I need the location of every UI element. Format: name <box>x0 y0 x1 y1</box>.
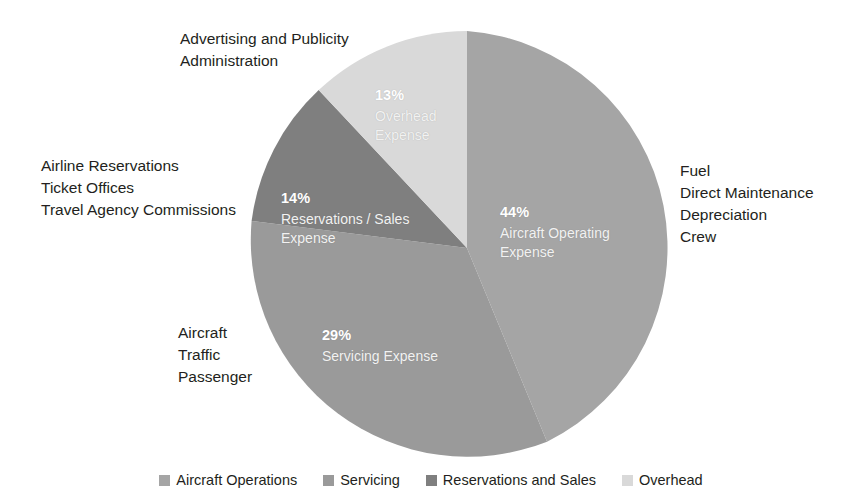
legend-swatch-icon <box>622 475 633 486</box>
callout-aircraft-line1: Fuel <box>680 160 814 182</box>
data-label-line1: Overhead <box>375 107 436 127</box>
legend-item-label: Aircraft Operations <box>176 472 297 488</box>
data-label-overhead: 13% Overhead Expense <box>375 86 436 146</box>
callout-servicing-line1: Aircraft <box>178 322 252 344</box>
chart-legend: Aircraft Operations Servicing Reservatio… <box>0 472 862 488</box>
callout-servicing-line3: Passenger <box>178 366 252 388</box>
callout-servicing-line2: Traffic <box>178 344 252 366</box>
legend-swatch-icon <box>159 475 170 486</box>
legend-swatch-icon <box>323 475 334 486</box>
data-label-servicing: 29% Servicing Expense <box>322 326 438 366</box>
data-label-line2: Expense <box>500 243 610 263</box>
callout-aircraft-operations: Fuel Direct Maintenance Depreciation Cre… <box>680 160 814 248</box>
callout-aircraft-line2: Direct Maintenance <box>680 182 814 204</box>
data-label-percent: 13% <box>375 86 436 106</box>
legend-swatch-icon <box>426 475 437 486</box>
callout-reservations-line2: Ticket Offices <box>41 177 236 199</box>
data-label-aircraft-operations: 44% Aircraft Operating Expense <box>500 203 610 263</box>
callout-aircraft-line4: Crew <box>680 226 814 248</box>
callout-overhead: Advertising and Publicity Administration <box>180 28 349 72</box>
callout-overhead-line2: Administration <box>180 50 349 72</box>
data-label-reservations-and-sales: 14% Reservations / Sales Expense <box>281 189 409 249</box>
callout-reservations-line3: Travel Agency Commissions <box>41 199 236 221</box>
data-label-line2: Expense <box>281 229 409 249</box>
data-label-line1: Reservations / Sales <box>281 210 409 230</box>
legend-item-overhead[interactable]: Overhead <box>622 472 703 488</box>
legend-item-servicing[interactable]: Servicing <box>323 472 400 488</box>
data-label-line2: Expense <box>375 126 436 146</box>
data-label-line1: Aircraft Operating <box>500 224 610 244</box>
legend-item-label: Reservations and Sales <box>443 472 596 488</box>
data-label-percent: 29% <box>322 326 438 346</box>
legend-item-aircraft-operations[interactable]: Aircraft Operations <box>159 472 297 488</box>
callout-aircraft-line3: Depreciation <box>680 204 814 226</box>
data-label-percent: 44% <box>500 203 610 223</box>
data-label-percent: 14% <box>281 189 409 209</box>
callout-servicing: Aircraft Traffic Passenger <box>178 322 252 388</box>
legend-item-label: Servicing <box>340 472 400 488</box>
legend-item-reservations-and-sales[interactable]: Reservations and Sales <box>426 472 596 488</box>
data-label-line1: Servicing Expense <box>322 347 438 367</box>
callout-reservations-line1: Airline Reservations <box>41 155 236 177</box>
callout-reservations-and-sales: Airline Reservations Ticket Offices Trav… <box>41 155 236 221</box>
pie-chart: 44% Aircraft Operating Expense 29% Servi… <box>0 0 862 503</box>
callout-overhead-line1: Advertising and Publicity <box>180 28 349 50</box>
legend-item-label: Overhead <box>639 472 703 488</box>
